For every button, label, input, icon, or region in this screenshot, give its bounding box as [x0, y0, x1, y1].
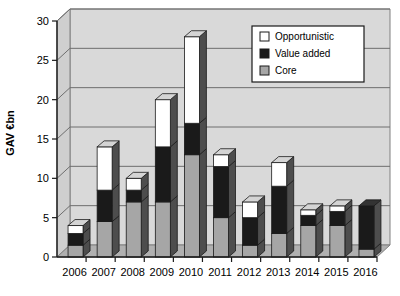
bar-segment-core: [243, 245, 258, 257]
bar-segment-core: [184, 155, 199, 257]
bar-segment-core: [214, 218, 229, 257]
x-tick-label-2013: 2013: [266, 266, 290, 278]
bar-segment-opportunistic: [330, 206, 345, 212]
bar-segment-value-added: [214, 167, 229, 218]
bar-segment-core: [155, 202, 170, 257]
bar-segment-core: [126, 202, 141, 257]
legend-swatch-value-added: [260, 49, 269, 58]
bar-segment-value-added: [155, 147, 170, 202]
legend-label-opportunistic: Opportunistic: [275, 31, 334, 42]
bar-2011: [214, 149, 236, 257]
chart-container: 051015202530GAV €bn200620072008200920102…: [0, 0, 400, 296]
bar-segment-value-added: [272, 186, 287, 233]
bar-segment-opportunistic: [301, 210, 316, 216]
x-tick-label-2009: 2009: [150, 266, 174, 278]
bar-segment-core: [68, 245, 83, 257]
y-tick-label: 10: [37, 172, 49, 184]
bar-segment-value-added: [243, 218, 258, 246]
bar-2008: [126, 172, 148, 257]
bar-segment-value-added: [126, 190, 141, 202]
bar-segment-side: [112, 216, 119, 257]
y-axis-ticks: 051015202530: [37, 15, 57, 263]
bar-segment-value-added: [184, 123, 199, 154]
legend-label-value-added: Value added: [275, 48, 330, 59]
y-tick-label: 0: [43, 251, 49, 263]
bar-segment-side: [199, 149, 206, 257]
y-tick-label: 30: [37, 15, 49, 27]
bar-segment-core: [359, 249, 374, 257]
bar-segment-value-added: [68, 233, 83, 245]
bar-segment-side: [170, 141, 177, 202]
x-tick-label-2011: 2011: [208, 266, 232, 278]
bar-2013: [272, 157, 294, 257]
legend: OpportunisticValue addedCore: [252, 26, 364, 82]
bar-segment-side: [287, 180, 294, 233]
y-axis-title: GAV €bn: [4, 110, 16, 156]
bar-segment-side: [170, 196, 177, 257]
bar-2016: [359, 200, 381, 257]
x-tick-label-2014: 2014: [295, 266, 319, 278]
bar-segment-core: [97, 222, 112, 257]
bar-segment-opportunistic: [68, 226, 83, 234]
x-axis-ticks: 2006200720082009201020112012201320142015…: [62, 257, 377, 278]
bar-segment-opportunistic: [243, 202, 258, 218]
bar-segment-core: [330, 226, 345, 257]
y-tick-label: 20: [37, 94, 49, 106]
bar-segment-value-added: [97, 190, 112, 221]
bar-segment-side: [229, 212, 236, 257]
bar-segment-side: [141, 196, 148, 257]
bar-2014: [301, 204, 323, 257]
legend-label-core: Core: [275, 65, 297, 76]
bar-segment-opportunistic: [97, 147, 112, 190]
x-tick-label-2016: 2016: [353, 266, 377, 278]
bar-segment-side: [374, 200, 381, 249]
bar-2010: [184, 31, 206, 257]
x-tick-label-2007: 2007: [91, 266, 115, 278]
x-tick-label-2006: 2006: [62, 266, 86, 278]
bar-2012: [243, 196, 265, 257]
bar-segment-core: [272, 233, 287, 257]
bar-2009: [155, 94, 177, 257]
x-tick-label-2010: 2010: [179, 266, 203, 278]
bar-2006: [68, 220, 90, 257]
legend-swatch-opportunistic: [260, 32, 269, 41]
bar-segment-opportunistic: [126, 178, 141, 190]
bar-segment-side: [229, 161, 236, 218]
bar-segment-value-added: [301, 215, 316, 225]
y-tick-label: 25: [37, 54, 49, 66]
bar-segment-opportunistic: [155, 100, 170, 147]
x-tick-label-2015: 2015: [324, 266, 348, 278]
bar-2007: [97, 141, 119, 257]
bar-segment-value-added: [330, 211, 345, 225]
bar-segment-side: [112, 141, 119, 190]
x-tick-label-2008: 2008: [120, 266, 144, 278]
bar-segment-value-added: [359, 206, 374, 249]
y-tick-label: 5: [43, 212, 49, 224]
x-tick-label-2012: 2012: [237, 266, 261, 278]
legend-swatch-core: [260, 66, 269, 75]
bar-segment-opportunistic: [184, 37, 199, 124]
bar-segment-side: [170, 94, 177, 147]
bar-segment-side: [199, 31, 206, 124]
bar-2015: [330, 200, 352, 257]
bar-segment-opportunistic: [272, 163, 287, 187]
bar-segment-opportunistic: [214, 155, 229, 167]
stacked-bar-chart: 051015202530GAV €bn200620072008200920102…: [0, 0, 400, 296]
bar-segment-core: [301, 226, 316, 257]
y-tick-label: 15: [37, 133, 49, 145]
